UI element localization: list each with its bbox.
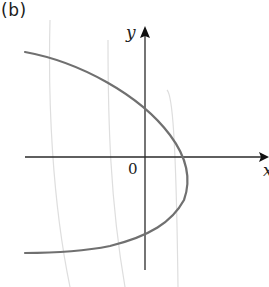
- y-axis-label: y: [126, 22, 136, 42]
- background-lines: [50, 20, 178, 287]
- parabola-figure: (b) y x 0: [0, 0, 269, 287]
- x-axis-label: x: [263, 160, 269, 180]
- panel-label: (b): [1, 0, 27, 20]
- x-axis: [25, 152, 269, 162]
- origin-label: 0: [128, 160, 138, 178]
- graph-canvas: [0, 0, 269, 287]
